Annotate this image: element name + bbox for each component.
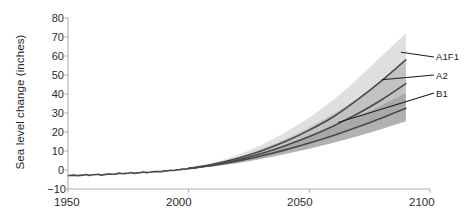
plot-area [0, 0, 470, 223]
sea-level-chart: Sea level change (inches) 80 70 60 50 40… [0, 0, 470, 223]
uncertainty-bands [189, 33, 406, 168]
